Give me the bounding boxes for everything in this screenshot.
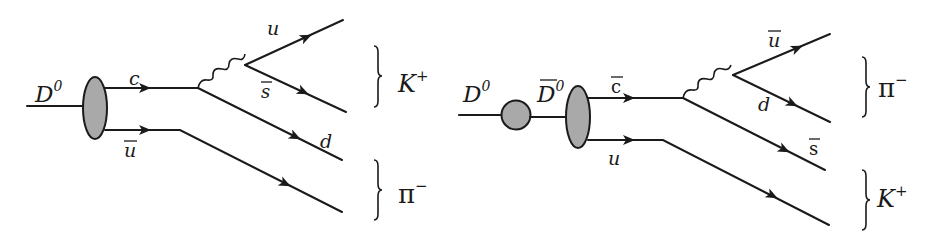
arrow-icon — [765, 188, 780, 202]
label-sbar: s — [809, 138, 820, 159]
d-quark-line — [733, 75, 830, 122]
d0bar-meson-blob — [566, 86, 590, 148]
feynman-diagrams: D0 c u u s d K+ π− — [0, 0, 934, 244]
diagram-mixing-decay: D0 D0 c u u d s π− K+ — [460, 29, 908, 230]
arrow-icon — [278, 176, 293, 190]
arrow-icon — [790, 41, 805, 55]
label-ubar-out: u — [768, 29, 781, 51]
svg-text:s: s — [809, 138, 818, 159]
u-quark-line — [245, 20, 343, 65]
label-d0bar: D0 — [536, 78, 564, 107]
label-c: c — [129, 67, 140, 89]
brace-pi-minus — [862, 57, 870, 117]
arrow-icon — [299, 30, 314, 44]
svg-text:u: u — [768, 29, 780, 51]
label-k-plus: K+ — [876, 182, 908, 213]
mixing-blob — [502, 101, 531, 130]
svg-text:s: s — [261, 81, 270, 102]
label-cbar: c — [611, 76, 623, 97]
label-d0: D0 — [34, 78, 62, 107]
label-sbar: s — [261, 81, 272, 102]
label-k-plus: K+ — [397, 67, 429, 98]
d0-meson-blob — [83, 77, 107, 139]
label-d: d — [758, 93, 770, 115]
diagram-direct-decay: D0 c u u s d K+ π− — [27, 17, 429, 220]
brace-k-plus — [862, 170, 870, 230]
svg-text:D0: D0 — [536, 78, 564, 107]
label-ubar: u — [124, 139, 137, 161]
svg-text:u: u — [124, 139, 136, 161]
arrow-icon — [777, 142, 792, 156]
arrow-icon — [296, 85, 311, 99]
brace-pi-minus — [374, 160, 382, 220]
label-d: d — [320, 130, 332, 152]
arrow-icon — [288, 129, 303, 143]
brace-k-plus — [374, 46, 382, 107]
ubar-quark-line — [733, 34, 830, 75]
arrow-icon — [785, 97, 800, 111]
label-pi-minus: π− — [878, 71, 908, 103]
label-d0: D0 — [462, 78, 490, 107]
w-boson-line — [683, 65, 731, 98]
label-u: u — [267, 17, 279, 39]
w-boson-line — [198, 54, 245, 88]
label-pi-minus: π− — [398, 177, 428, 209]
label-u: u — [608, 147, 620, 169]
svg-text:c: c — [611, 76, 621, 97]
